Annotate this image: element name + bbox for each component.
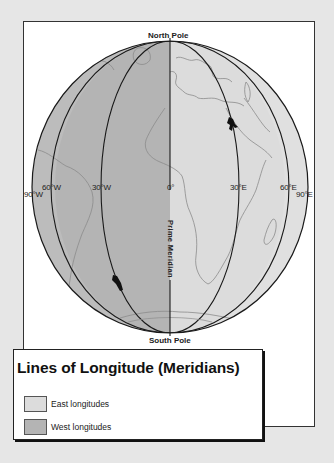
legend-item-east: East longitudes xyxy=(24,395,109,412)
legend: Lines of Longitude (Meridians) East long… xyxy=(13,349,263,440)
north-pole-label: North Pole xyxy=(148,31,188,40)
legend-label-west: West longitudes xyxy=(51,422,111,432)
diagram-title: Lines of Longitude (Meridians) xyxy=(17,359,240,377)
label-30e: 30°E xyxy=(230,183,247,192)
label-90w: 90°W xyxy=(24,190,43,199)
south-pole-label: South Pole xyxy=(149,336,191,345)
label-30w: 30°W xyxy=(92,183,111,192)
legend-label-east: East longitudes xyxy=(51,399,109,409)
label-90e: 90°E xyxy=(296,190,313,199)
label-60w: 60°W xyxy=(42,183,61,192)
label-0: 0° xyxy=(167,183,174,192)
west-swatch xyxy=(24,419,47,435)
east-swatch xyxy=(24,396,47,412)
prime-meridian-label: Prime Meridian xyxy=(166,220,175,278)
legend-item-west: West longitudes xyxy=(24,418,111,435)
label-60e: 60°E xyxy=(280,183,297,192)
